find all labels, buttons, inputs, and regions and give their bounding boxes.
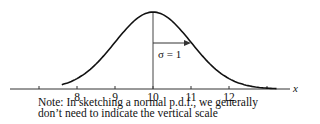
x-axis-label: x — [292, 82, 298, 94]
note-line-2: don’t need to indicate the vertical scal… — [38, 108, 258, 119]
sigma-label: σ = 1 — [158, 48, 181, 60]
figure-note: Note: In sketching a normal p.d.f., we g… — [38, 97, 258, 119]
